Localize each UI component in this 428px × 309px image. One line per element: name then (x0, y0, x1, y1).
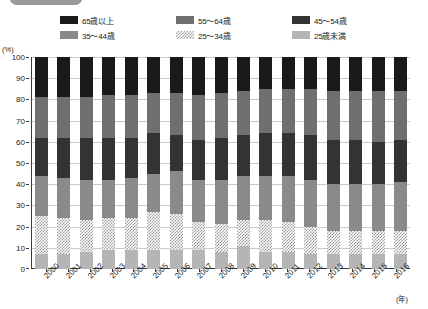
y-tick-label-40: 40 (16, 180, 25, 189)
bar-segment-2011-35〜44歳 (282, 176, 295, 223)
y-tick-label-30: 30 (16, 201, 25, 210)
y-tick-label-80: 80 (16, 95, 25, 104)
bar-segment-2006-45〜54歳 (170, 135, 183, 171)
bar-segment-2009-45〜54歳 (237, 135, 250, 175)
bar-segment-2015-25〜34歳 (372, 231, 385, 254)
bar-segment-2003-45〜54歳 (102, 138, 115, 180)
bar-segment-2000-35〜44歳 (35, 176, 48, 216)
bar-segment-2002-25〜34歳 (80, 220, 93, 252)
legend-swatch-icon-age65p (60, 16, 78, 24)
bar-segment-2007-55〜64歳 (192, 95, 205, 140)
bar-segment-2015-45〜54歳 (372, 142, 385, 184)
bar-segment-2003-55〜64歳 (102, 95, 115, 137)
bar-segment-2012-65歳以上 (304, 57, 317, 89)
y-tick-mark-0 (26, 268, 29, 269)
bar-segment-2013-55〜64歳 (327, 91, 340, 140)
chart-legend: 65歳以上55〜64歳45〜54歳35〜44歳25〜34歳25歳未満 (60, 14, 410, 41)
y-tick-label-0: 0 (21, 265, 25, 274)
legend-item-age2534: 25〜34歳 (176, 29, 292, 41)
bar-segment-2009-25〜34歳 (237, 220, 250, 245)
bar-segment-2009-35〜44歳 (237, 176, 250, 221)
bar-segment-2016-55〜64歳 (394, 91, 407, 140)
y-tick-mark-50 (26, 163, 29, 164)
bar-segment-2006-55〜64歳 (170, 93, 183, 135)
bar-segment-2003-25〜34歳 (102, 218, 115, 250)
bar-segment-2008-45〜54歳 (215, 138, 228, 180)
bar-segment-2014-45〜54歳 (349, 140, 362, 185)
bar-2002 (80, 57, 93, 269)
bar-segment-2000-45〜54歳 (35, 138, 48, 176)
legend-label-age2534: 25〜34歳 (198, 30, 231, 41)
bar-segment-2016-65歳以上 (394, 57, 407, 91)
bar-segment-2000-25〜34歳 (35, 216, 48, 254)
bar-segment-2007-25〜34歳 (192, 222, 205, 250)
y-tick-mark-10 (26, 248, 29, 249)
bar-segment-2011-55〜64歳 (282, 89, 295, 134)
y-axis: 1009080706050403020100 (0, 57, 29, 269)
bar-segment-2012-45〜54歳 (304, 135, 317, 180)
y-tick-label-10: 10 (16, 243, 25, 252)
bar-segment-2011-25〜34歳 (282, 222, 295, 252)
bar-segment-2007-35〜44歳 (192, 180, 205, 222)
bar-2009 (237, 57, 250, 269)
legend-swatch-icon-age5564 (176, 16, 194, 24)
bar-segment-2004-65歳以上 (125, 57, 138, 95)
bar-2000 (35, 57, 48, 269)
bar-2010 (259, 57, 272, 269)
bar-segment-2005-65歳以上 (147, 57, 160, 93)
bar-segment-2012-25〜34歳 (304, 227, 317, 255)
bar-segment-2005-35〜44歳 (147, 174, 160, 212)
legend-item-ageu25: 25歳未満 (292, 29, 408, 41)
bar-segment-2010-45〜54歳 (259, 133, 272, 175)
bar-segment-2001-25〜34歳 (57, 218, 70, 254)
bar-2004 (125, 57, 138, 269)
bar-segment-2013-25〜34歳 (327, 231, 340, 254)
bar-segment-2001-55〜64歳 (57, 97, 70, 137)
y-tick-mark-60 (26, 142, 29, 143)
x-axis: (年) 200020012002200320042005200620072008… (31, 269, 410, 309)
bar-segment-2016-45〜54歳 (394, 140, 407, 182)
y-tick-mark-70 (26, 121, 29, 122)
bar-2005 (147, 57, 160, 269)
bar-segment-2000-65歳以上 (35, 57, 48, 97)
bar-segment-2010-65歳以上 (259, 57, 272, 89)
bar-segment-2002-55〜64歳 (80, 97, 93, 137)
bar-segment-2012-55〜64歳 (304, 89, 317, 136)
bar-segment-2004-35〜44歳 (125, 178, 138, 218)
legend-item-age3544: 35〜44歳 (60, 29, 176, 41)
bar-segment-2002-45〜54歳 (80, 138, 93, 180)
bar-segment-2000-55〜64歳 (35, 97, 48, 137)
bar-segment-2010-25〜34歳 (259, 220, 272, 252)
bar-segment-2001-35〜44歳 (57, 178, 70, 218)
bar-segment-2015-65歳以上 (372, 57, 385, 91)
bar-segment-2015-55〜64歳 (372, 91, 385, 142)
x-axis-unit-label: (年) (396, 293, 408, 304)
bar-segment-2006-65歳以上 (170, 57, 183, 93)
legend-swatch-icon-ageu25 (292, 31, 310, 39)
legend-label-age4554: 45〜54歳 (314, 15, 347, 26)
bar-2016 (394, 57, 407, 269)
bar-segment-2001-65歳以上 (57, 57, 70, 97)
legend-item-age65p: 65歳以上 (60, 14, 176, 26)
legend-label-age5564: 55〜64歳 (198, 15, 231, 26)
bar-segment-2016-35〜44歳 (394, 182, 407, 231)
y-tick-mark-100 (26, 57, 29, 58)
y-tick-label-90: 90 (16, 74, 25, 83)
bar-segment-2005-45〜54歳 (147, 133, 160, 173)
legend-swatch-icon-age2534 (176, 31, 194, 39)
bar-segment-2016-25〜34歳 (394, 231, 407, 254)
legend-swatch-icon-age3544 (60, 31, 78, 39)
bar-segment-2008-65歳以上 (215, 57, 228, 93)
bar-2012 (304, 57, 317, 269)
bar-2007 (192, 57, 205, 269)
bar-2006 (170, 57, 183, 269)
bar-segment-2001-45〜54歳 (57, 138, 70, 178)
bar-segment-2004-25〜34歳 (125, 218, 138, 250)
legend-item-age5564: 55〜64歳 (176, 14, 292, 26)
bar-segment-2011-45〜54歳 (282, 133, 295, 175)
y-tick-mark-90 (26, 78, 29, 79)
bar-segment-2006-25〜34歳 (170, 214, 183, 250)
bar-segment-2008-35〜44歳 (215, 180, 228, 225)
y-tick-label-70: 70 (16, 116, 25, 125)
bar-segment-2014-35〜44歳 (349, 184, 362, 231)
